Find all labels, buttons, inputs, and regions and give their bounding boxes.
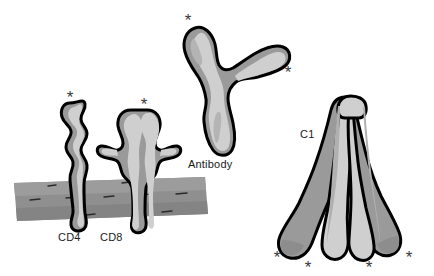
- label-cd4: CD4: [58, 231, 81, 243]
- label-cd8: CD8: [100, 231, 123, 243]
- asterisk-c1-arm-2: *: [305, 258, 312, 276]
- c1-molecule: [278, 96, 400, 260]
- asterisk-antibody-right: *: [285, 63, 292, 82]
- asterisk-antibody-left: *: [185, 11, 192, 30]
- label-antibody: Antibody: [188, 158, 232, 170]
- label-c1: C1: [300, 128, 314, 140]
- cell-membrane: [14, 177, 208, 221]
- asterisk-c1-arm-1: *: [274, 248, 281, 267]
- antibody-molecule: [184, 27, 290, 155]
- asterisk-cd4: *: [67, 88, 74, 107]
- asterisk-c1-arm-4: *: [406, 248, 413, 267]
- asterisk-c1-arm-3: *: [366, 258, 373, 276]
- asterisk-cd8: *: [141, 95, 148, 114]
- figure-canvas: * * * * * * * * CD4 CD8 Antibody C1: [0, 0, 434, 276]
